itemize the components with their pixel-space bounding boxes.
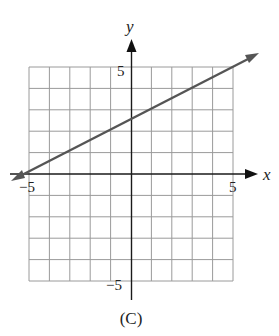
y-axis-arrow-icon: [127, 39, 137, 52]
x-axis-arrow-icon: [245, 169, 258, 179]
y-min-tick-label: −5: [106, 277, 122, 293]
figure-caption: (C): [0, 309, 262, 329]
line-arrow-right-icon: [245, 53, 259, 63]
x-axis-label: x: [262, 165, 271, 184]
y-axis-label: y: [124, 17, 134, 36]
x-min-tick-label: −5: [19, 179, 35, 195]
x-max-tick-label: 5: [229, 179, 237, 195]
axes: [10, 48, 250, 300]
plotted-line: [11, 53, 259, 181]
coordinate-plane: y x −5 5 5 −5: [0, 0, 279, 336]
y-max-tick-label: 5: [117, 63, 125, 79]
